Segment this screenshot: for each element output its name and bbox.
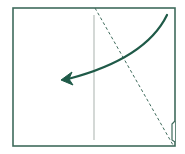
origami-diagram <box>0 0 185 154</box>
corner-flap-edge <box>172 121 175 142</box>
